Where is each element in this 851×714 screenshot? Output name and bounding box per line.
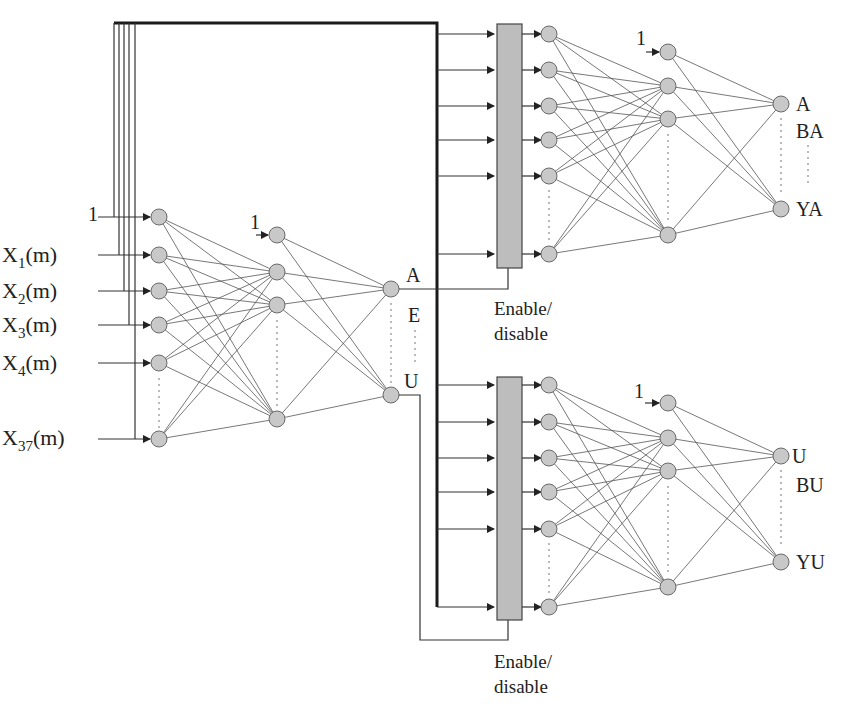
first-net-input-nodes	[151, 209, 167, 447]
first-net-output-nodes: A E U	[383, 264, 421, 403]
bottom-switch-label-line1: Enable/	[494, 651, 553, 672]
input-label-x2: X2(m)	[2, 278, 57, 307]
bottom-switch-label-line2: disable	[494, 676, 548, 697]
bottom-output-label-yu: YU	[796, 551, 825, 573]
enable-line-u	[399, 395, 508, 640]
top-enable-disable-switch	[497, 24, 522, 268]
neural-network-diagram: 1 X1(m) X2(m) X3(m) X4(m) X37(m)	[0, 0, 851, 714]
bottom-output-label-u: U	[792, 445, 807, 467]
top-net-nodes: 1 A BA YA	[541, 26, 824, 262]
top-output-label-ba: BA	[796, 120, 824, 142]
top-output-label-ya: YA	[796, 198, 823, 220]
bottom-switch-outputs	[522, 385, 541, 607]
top-hidden-bias-label: 1	[636, 27, 646, 49]
output-label-a: A	[406, 264, 421, 286]
hidden-bias-label: 1	[250, 211, 260, 233]
input-label-x3: X3(m)	[2, 312, 57, 341]
first-net-edges-hidden-output	[277, 235, 391, 419]
input-label-x1: X1(m)	[2, 242, 57, 271]
bottom-switch-inputs	[437, 385, 494, 607]
top-switch-inputs	[437, 34, 494, 254]
input-label-x4: X4(m)	[2, 350, 57, 379]
top-switch-label-line2: disable	[494, 323, 548, 344]
bottom-enable-disable-switch	[497, 377, 522, 620]
input-labels: 1 X1(m) X2(m) X3(m) X4(m) X37(m)	[2, 203, 98, 454]
input-label-x37: X37(m)	[2, 425, 65, 454]
first-net-hidden-nodes: 1	[250, 211, 285, 427]
input-bus	[114, 23, 437, 607]
top-output-label-a: A	[796, 93, 811, 115]
input-label-bias: 1	[88, 203, 98, 225]
bottom-output-label-bu: BU	[796, 474, 824, 496]
output-label-e: E	[408, 304, 420, 326]
top-switch-label-line1: Enable/	[494, 298, 553, 319]
top-net-edges	[549, 34, 781, 254]
top-switch-outputs	[522, 34, 541, 254]
bottom-net-edges	[549, 385, 781, 607]
output-label-u: U	[404, 370, 419, 392]
first-net-edges-input-hidden	[159, 217, 277, 439]
bottom-hidden-bias-label: 1	[634, 380, 644, 402]
